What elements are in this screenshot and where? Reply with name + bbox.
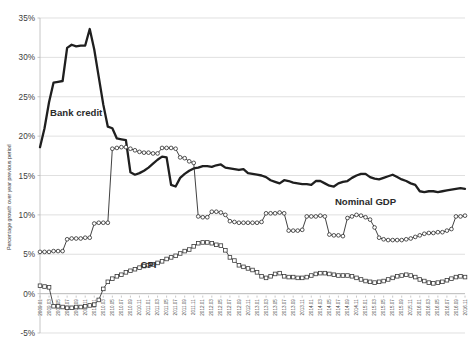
y-axis-title: Percentage growth over year previous per… bbox=[6, 144, 12, 250]
series-marker-nominal-gdp bbox=[178, 156, 182, 160]
series-group bbox=[38, 29, 467, 310]
series-marker-nominal-gdp bbox=[187, 159, 191, 163]
y-tick-label: 0% bbox=[23, 290, 35, 299]
series-marker-cpi bbox=[436, 281, 440, 285]
series-marker-cpi bbox=[169, 256, 173, 260]
x-tick-label: 2016.03 bbox=[426, 299, 431, 316]
series-marker-nominal-gdp bbox=[413, 235, 417, 239]
series-annotations: Bank creditNominal GDPCPI bbox=[50, 107, 397, 270]
x-tick-label: 2010.01 bbox=[92, 299, 97, 316]
series-marker-nominal-gdp bbox=[323, 215, 327, 219]
series-marker-cpi bbox=[395, 275, 399, 279]
series-marker-nominal-gdp bbox=[65, 237, 69, 241]
series-marker-nominal-gdp bbox=[88, 236, 92, 240]
series-marker-cpi bbox=[183, 249, 187, 253]
series-marker-nominal-gdp bbox=[169, 146, 173, 150]
series-marker-cpi bbox=[441, 280, 445, 284]
series-marker-nominal-gdp bbox=[463, 214, 467, 218]
series-marker-nominal-gdp bbox=[237, 221, 241, 225]
series-marker-nominal-gdp bbox=[255, 221, 259, 225]
x-tick-label: 2013.09 bbox=[291, 299, 296, 316]
series-marker-cpi bbox=[251, 268, 255, 272]
series-marker-nominal-gdp bbox=[382, 237, 386, 241]
series-marker-nominal-gdp bbox=[422, 232, 426, 236]
series-marker-nominal-gdp bbox=[459, 215, 463, 219]
chart-container: 35%30%25%20%15%10%5%0%-5% 2009.012009.03… bbox=[0, 0, 469, 353]
x-tick-label: 2010.11 bbox=[137, 299, 142, 316]
series-marker-cpi bbox=[350, 275, 354, 279]
series-marker-nominal-gdp bbox=[400, 238, 404, 242]
series-marker-nominal-gdp bbox=[373, 226, 377, 230]
series-marker-nominal-gdp bbox=[432, 231, 436, 235]
series-marker-nominal-gdp bbox=[174, 147, 178, 151]
series-marker-nominal-gdp bbox=[269, 211, 273, 215]
series-marker-cpi bbox=[106, 280, 110, 284]
series-marker-cpi bbox=[368, 280, 372, 284]
x-tick-label: 2010.05 bbox=[110, 299, 115, 316]
series-marker-cpi bbox=[88, 304, 92, 308]
series-marker-nominal-gdp bbox=[404, 237, 408, 241]
series-marker-cpi bbox=[187, 248, 191, 252]
series-marker-cpi bbox=[111, 277, 115, 281]
series-marker-nominal-gdp bbox=[251, 221, 255, 225]
series-marker-nominal-gdp bbox=[192, 161, 196, 165]
x-tick-label: 2009.01 bbox=[38, 299, 43, 316]
x-tick-label: 2012.07 bbox=[227, 299, 232, 316]
series-line-bank-credit bbox=[40, 29, 465, 192]
series-marker-nominal-gdp bbox=[454, 215, 458, 219]
series-marker-cpi bbox=[413, 275, 417, 279]
series-marker-cpi bbox=[300, 276, 304, 280]
x-tick-label: 2010.09 bbox=[128, 299, 133, 316]
series-marker-nominal-gdp bbox=[201, 215, 205, 219]
series-marker-nominal-gdp bbox=[147, 151, 151, 155]
series-marker-cpi bbox=[454, 275, 458, 279]
series-marker-cpi bbox=[61, 305, 65, 309]
series-marker-nominal-gdp bbox=[391, 238, 395, 242]
series-marker-cpi bbox=[373, 281, 377, 285]
series-marker-nominal-gdp bbox=[264, 211, 268, 215]
series-marker-nominal-gdp bbox=[359, 214, 363, 218]
x-tick-label: 2011.07 bbox=[173, 299, 178, 316]
y-axis-title-group: Percentage growth over year previous per… bbox=[6, 144, 12, 250]
series-marker-cpi bbox=[228, 256, 232, 260]
series-marker-nominal-gdp bbox=[242, 221, 246, 225]
y-tick-labels: 35%30%25%20%15%10%5%0%-5% bbox=[19, 14, 40, 338]
series-marker-cpi bbox=[418, 278, 422, 282]
series-marker-nominal-gdp bbox=[291, 229, 295, 233]
series-marker-nominal-gdp bbox=[142, 151, 146, 155]
series-marker-nominal-gdp bbox=[47, 250, 51, 254]
series-marker-cpi bbox=[282, 275, 286, 279]
series-marker-nominal-gdp bbox=[43, 250, 47, 254]
series-marker-nominal-gdp bbox=[346, 216, 350, 220]
x-tick-label: 2013.01 bbox=[255, 299, 260, 316]
series-marker-cpi bbox=[273, 272, 277, 276]
series-marker-nominal-gdp bbox=[246, 221, 250, 225]
series-marker-cpi bbox=[328, 272, 332, 276]
series-marker-cpi bbox=[423, 279, 427, 283]
series-marker-cpi bbox=[287, 275, 291, 279]
x-tick-label: 2012.01 bbox=[200, 299, 205, 316]
series-marker-nominal-gdp bbox=[332, 234, 336, 238]
series-marker-nominal-gdp bbox=[83, 236, 87, 240]
x-tick-label: 2016.07 bbox=[445, 299, 450, 316]
x-tick-label: 2014.09 bbox=[345, 299, 350, 316]
series-marker-cpi bbox=[52, 304, 56, 308]
series-marker-cpi bbox=[269, 275, 273, 279]
series-marker-cpi bbox=[291, 275, 295, 279]
series-marker-cpi bbox=[174, 254, 178, 258]
series-marker-cpi bbox=[101, 287, 105, 291]
series-marker-nominal-gdp bbox=[156, 152, 160, 156]
series-marker-cpi bbox=[332, 273, 336, 277]
series-marker-cpi bbox=[427, 281, 431, 285]
series-marker-nominal-gdp bbox=[278, 211, 282, 215]
y-tick-label: 15% bbox=[19, 172, 35, 181]
series-marker-cpi bbox=[115, 275, 119, 279]
series-marker-nominal-gdp bbox=[124, 145, 128, 149]
y-tick-label: 5% bbox=[23, 250, 35, 259]
series-marker-nominal-gdp bbox=[409, 237, 413, 241]
y-tick-label: 35% bbox=[19, 14, 35, 23]
series-marker-cpi bbox=[296, 276, 300, 280]
x-tick-label: 2013.03 bbox=[264, 299, 269, 316]
x-tick-label: 2015.11 bbox=[408, 299, 413, 316]
series-marker-cpi bbox=[192, 245, 196, 249]
